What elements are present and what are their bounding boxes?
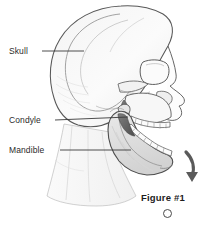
figure-panel: Skull Condyle Mandible Figure #1 xyxy=(0,0,209,234)
empty-circle-marker-icon[interactable] xyxy=(163,209,172,218)
jaw-opening-arrow xyxy=(186,152,198,182)
label-skull: Skull xyxy=(9,46,28,56)
figure-caption: Figure #1 xyxy=(141,192,185,203)
label-condyle: Condyle xyxy=(9,115,41,125)
label-mandible: Mandible xyxy=(9,145,44,155)
